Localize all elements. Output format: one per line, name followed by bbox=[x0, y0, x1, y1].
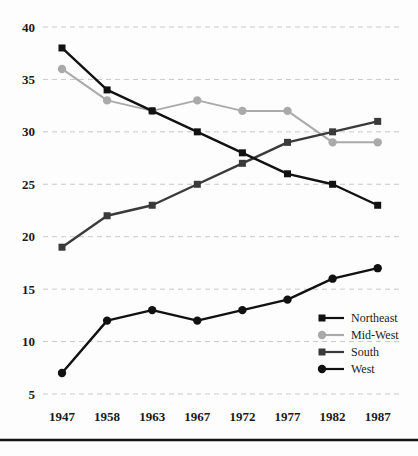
data-point bbox=[283, 295, 291, 303]
data-point bbox=[239, 149, 246, 156]
x-axis-tick-label: 1967 bbox=[184, 409, 211, 424]
legend-entry: Mid-West bbox=[318, 328, 400, 342]
line-chart: 5101520253035401947195819631967197219771… bbox=[0, 0, 418, 456]
data-point bbox=[149, 202, 156, 209]
data-point bbox=[328, 138, 336, 146]
legend-entry: Northeast bbox=[319, 311, 399, 325]
chart-page: 5101520253035401947195819631967197219771… bbox=[0, 0, 418, 456]
data-point bbox=[59, 244, 66, 251]
data-point bbox=[328, 274, 336, 282]
data-point bbox=[374, 202, 381, 209]
data-point bbox=[374, 264, 382, 272]
data-point bbox=[284, 170, 291, 177]
data-point bbox=[59, 44, 66, 51]
data-point bbox=[374, 138, 382, 146]
legend-label: Mid-West bbox=[351, 328, 399, 342]
data-point bbox=[104, 86, 111, 93]
data-point bbox=[238, 306, 246, 314]
data-point bbox=[103, 316, 111, 324]
legend-label: West bbox=[351, 362, 375, 376]
y-axis-tick-label: 25 bbox=[22, 177, 36, 192]
legend-marker bbox=[319, 315, 326, 322]
y-axis-tick-label: 40 bbox=[22, 20, 35, 35]
legend-marker bbox=[318, 365, 326, 373]
x-axis-tick-label: 1963 bbox=[139, 409, 166, 424]
data-point bbox=[329, 181, 336, 188]
x-axis-tick-label: 1977 bbox=[275, 409, 302, 424]
x-axis-tick-label: 1958 bbox=[94, 409, 121, 424]
data-point bbox=[284, 139, 291, 146]
x-axis-tick-label: 1982 bbox=[320, 409, 346, 424]
data-point bbox=[194, 181, 201, 188]
x-axis-tick-label: 1972 bbox=[229, 409, 255, 424]
y-axis-tick-label: 20 bbox=[22, 229, 35, 244]
data-point bbox=[193, 316, 201, 324]
data-point bbox=[148, 306, 156, 314]
data-point bbox=[374, 118, 381, 125]
legend-label: South bbox=[351, 345, 379, 359]
legend-marker bbox=[319, 349, 326, 356]
y-axis-tick-label: 35 bbox=[22, 72, 36, 87]
data-point bbox=[149, 107, 156, 114]
legend-marker bbox=[318, 331, 326, 339]
gridlines: 510152025303540 bbox=[22, 20, 400, 402]
data-point bbox=[239, 160, 246, 167]
y-axis-tick-label: 30 bbox=[22, 124, 35, 139]
x-axis-labels: 19471958196319671972197719821987 bbox=[49, 409, 391, 424]
data-point bbox=[283, 107, 291, 115]
y-axis-tick-label: 10 bbox=[22, 334, 35, 349]
y-axis-tick-label: 15 bbox=[22, 282, 36, 297]
legend-entry: South bbox=[319, 345, 380, 359]
data-point bbox=[193, 96, 201, 104]
legend: NortheastMid-WestSouthWest bbox=[318, 311, 400, 376]
legend-label: Northeast bbox=[351, 311, 398, 325]
x-axis-tick-label: 1947 bbox=[49, 409, 76, 424]
data-point bbox=[104, 212, 111, 219]
data-point bbox=[58, 369, 66, 377]
series-layer bbox=[58, 44, 382, 377]
data-point bbox=[329, 128, 336, 135]
data-point bbox=[58, 65, 66, 73]
data-point bbox=[103, 96, 111, 104]
data-point bbox=[194, 128, 201, 135]
data-point bbox=[238, 107, 246, 115]
series-west bbox=[58, 264, 382, 377]
x-axis-tick-label: 1987 bbox=[365, 409, 392, 424]
y-axis-tick-label: 5 bbox=[29, 387, 36, 402]
legend-entry: West bbox=[318, 362, 376, 376]
